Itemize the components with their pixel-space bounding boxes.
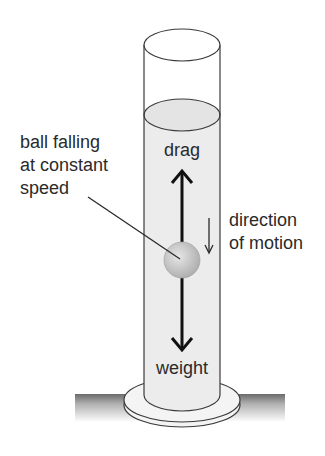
direction-label-line2: of motion [229,233,303,253]
falling-ball-diagram: ball falling at constant speed drag weig… [0,0,325,456]
direction-label-line1: direction [229,210,297,230]
weight-label: weight [155,358,208,378]
cylinder-rim [144,29,220,61]
liquid-surface [144,99,220,131]
drag-label: drag [164,140,200,160]
ball-label-line3: speed [20,178,69,198]
ball [164,242,200,278]
ball-label-line1: ball falling [20,132,100,152]
ball-label-line2: at constant [20,155,108,175]
